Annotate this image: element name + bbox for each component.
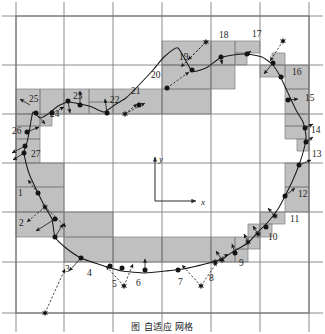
shaded-cell <box>162 89 211 114</box>
point-label-2: 2 <box>19 218 24 228</box>
point-label-6: 6 <box>136 278 141 288</box>
point-label-15: 15 <box>305 93 315 103</box>
point-label-17: 17 <box>252 29 262 39</box>
point-label-12: 12 <box>298 189 308 199</box>
curve-node-dot-marker <box>176 268 181 273</box>
curve-node-dot-marker <box>78 103 83 108</box>
curve-node-dot-marker <box>66 99 71 104</box>
curve-node-dot-marker <box>53 217 58 222</box>
curve-node-dot-marker <box>286 98 291 103</box>
shaded-cell <box>260 212 285 224</box>
point-label-7: 7 <box>178 277 183 287</box>
curve-node-dot-marker <box>283 194 288 199</box>
curve-node-dot-marker <box>245 52 250 57</box>
figure-caption: 图 自适应 网格 <box>0 320 325 333</box>
point-label-26: 26 <box>12 126 22 136</box>
y-axis-label: y <box>158 154 163 164</box>
point-label-8: 8 <box>209 273 214 283</box>
shaded-cell <box>16 114 40 126</box>
shaded-cell <box>162 237 211 262</box>
adaptive-grid-diagram: xy 1234567891011121314151617181920212223… <box>0 0 325 334</box>
shaded-cell <box>211 65 235 89</box>
point-label-22: 22 <box>110 95 120 105</box>
dashed-vector-arrow <box>45 269 65 313</box>
point-label-27: 27 <box>31 149 41 159</box>
point-label-4: 4 <box>87 268 92 278</box>
curve-node-dot-marker <box>53 235 58 240</box>
point-label-14: 14 <box>311 125 321 135</box>
curve-node-dot-marker <box>219 55 224 60</box>
grid-node-star-marker <box>198 282 204 289</box>
point-label-13: 13 <box>312 149 322 159</box>
shaded-cell <box>235 41 260 53</box>
coordinate-axes: xy <box>155 154 205 207</box>
point-label-25: 25 <box>29 94 39 104</box>
curve-node-dot-marker <box>36 191 41 196</box>
point-label-3: 3 <box>65 264 70 274</box>
point-label-21: 21 <box>131 86 141 96</box>
curve-node-dot-marker <box>304 140 309 145</box>
curve-node-dot-marker <box>165 86 170 91</box>
point-label-16: 16 <box>292 67 302 77</box>
shaded-cell <box>285 163 309 187</box>
curve-node-dot-marker <box>137 103 142 108</box>
point-label-20: 20 <box>151 70 161 80</box>
curve-node-dot-marker <box>22 151 27 156</box>
point-label-18: 18 <box>219 30 229 40</box>
dashed-vector-arrow <box>124 264 133 286</box>
point-label-9: 9 <box>239 258 244 268</box>
point-label-10: 10 <box>268 232 278 242</box>
curve-node-dot-marker <box>297 163 302 168</box>
shaded-cell <box>285 114 309 126</box>
curve-node-dot-marker <box>108 264 113 269</box>
shaded-cell <box>64 212 113 237</box>
caption-text: 图 自适应 网格 <box>131 322 194 332</box>
figure-container: xy 1234567891011121314151617181920212223… <box>0 0 325 334</box>
grid-node-star-marker <box>121 282 127 289</box>
curve-node-dot-marker <box>120 266 125 271</box>
curve-node-dot-marker <box>79 256 84 261</box>
curve-node-dot-marker <box>105 111 110 116</box>
curve-node-dot-marker <box>279 75 284 80</box>
point-label-19: 19 <box>179 52 189 62</box>
point-label-11: 11 <box>290 214 299 224</box>
shaded-cell <box>16 163 64 187</box>
x-axis-label: x <box>200 197 205 207</box>
curve-node-dot-marker <box>233 251 238 256</box>
point-label-1: 1 <box>18 188 23 198</box>
curve-node-dot-marker <box>143 268 148 273</box>
curve-node-dot-marker <box>303 126 308 131</box>
dashed-vector-arrow <box>182 265 201 286</box>
shaded-cell <box>16 187 64 212</box>
curve-node-dot-marker <box>271 61 276 66</box>
curve-node-dot-marker <box>23 144 28 149</box>
point-label-23: 23 <box>73 91 83 101</box>
curve-node-dot-marker <box>190 68 195 73</box>
curve-node-dot-marker <box>264 225 269 230</box>
shaded-cell <box>113 237 162 262</box>
curve-node-dot-marker <box>25 130 30 135</box>
curve-node-dot-marker <box>34 111 39 116</box>
shaded-cell <box>64 237 113 262</box>
point-label-24: 24 <box>50 109 60 119</box>
point-label-5: 5 <box>112 279 117 289</box>
grid-node-star-marker <box>280 37 286 44</box>
